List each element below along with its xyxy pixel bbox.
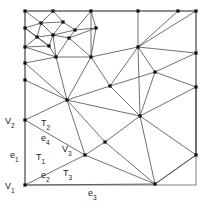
mesh-edge [41,11,53,23]
mesh-edge [85,155,155,184]
mesh-edge [37,37,49,46]
mesh-vertex [153,70,156,73]
mesh-vertex [176,9,179,12]
mesh-edge [138,47,140,116]
mesh-edge [56,57,67,100]
mesh-vertex [23,118,26,121]
boundary-rect [25,11,196,185]
mesh-edge [25,57,56,63]
mesh-vertex [89,55,92,58]
mesh-vertex [65,98,68,101]
mesh-vertex [23,9,26,12]
mesh-edge [53,35,69,38]
mesh-label-e1: e1 [10,150,19,163]
mesh-vertex [194,153,197,156]
mesh-vertex-layer [23,9,197,186]
mesh-edge [49,35,53,46]
mesh-edge [41,22,63,23]
mesh-edge [138,47,196,53]
mesh-label-V2: V2 [5,116,15,129]
mesh-edge [25,80,67,100]
mesh-vertex [61,20,64,23]
mesh-vertex [51,33,54,36]
mesh-edge [105,116,140,142]
mesh-edge [91,28,96,57]
mesh-edge [67,100,140,116]
mesh-edge [53,11,63,22]
mesh-edge [37,23,41,37]
mesh-edge [25,37,37,47]
mesh-edge [105,142,155,184]
mesh-edge [110,86,140,116]
mesh-edge-layer [25,11,196,185]
mesh-label-e3: e3 [88,188,97,201]
triangular-mesh-diagram: V1V2V3e1e2e3e4T1T2T3 [0,0,207,205]
mesh-edge [67,100,85,155]
mesh-edge [25,120,85,155]
mesh-edge [155,53,196,72]
mesh-edge [85,142,105,155]
mesh-edge [155,155,196,184]
mesh-vertex [47,44,50,47]
mesh-label-T2: T2 [41,118,51,131]
mesh-vertex [89,9,92,12]
mesh-label-T3: T3 [63,168,73,181]
mesh-edge [69,38,91,57]
domain-boundary-square [25,11,196,185]
mesh-label-T1: T1 [36,152,46,165]
mesh-vertex [23,45,26,48]
mesh-edge [25,23,41,28]
mesh-edge [25,46,49,47]
mesh-vertex [23,26,26,29]
mesh-edge [110,72,155,86]
mesh-edge [138,11,178,47]
mesh-edge [138,11,196,47]
mesh-edge [91,57,110,86]
mesh-vertex [94,26,97,29]
mesh-vertex [67,36,70,39]
mesh-vertex [35,35,38,38]
mesh-vertex [103,140,106,143]
mesh-vertex [54,55,57,58]
mesh-vertex [136,45,139,48]
mesh-edge [63,22,75,30]
mesh-edge [37,35,53,37]
mesh-edge [25,63,67,100]
mesh-vertex [194,85,197,88]
mesh-vertex [73,28,76,31]
mesh-edge [25,47,56,57]
mesh-edge [140,116,155,184]
mesh-vertex [138,114,141,117]
mesh-label-V1: V1 [5,181,15,194]
mesh-canvas: V1V2V3e1e2e3e4T1T2T3 [0,0,207,205]
mesh-edge [25,11,41,23]
mesh-vertex [51,9,54,12]
mesh-edge [138,47,155,72]
mesh-vertex [39,21,42,24]
mesh-vertex [23,78,26,81]
mesh-edge [56,38,69,57]
mesh-vertex [194,51,197,54]
mesh-edge [110,47,138,86]
mesh-edge [75,11,91,30]
mesh-vertex [194,9,197,12]
mesh-vertex [23,183,26,186]
mesh-edge [140,116,196,155]
mesh-label-e2: e2 [41,170,50,183]
mesh-label-V3: V3 [62,144,72,157]
mesh-vertex [83,153,86,156]
mesh-edge [91,47,138,57]
mesh-vertex [23,61,26,64]
mesh-label-e4: e4 [41,133,50,146]
mesh-vertex [153,182,156,185]
mesh-label-layer: V1V2V3e1e2e3e4T1T2T3 [5,116,97,201]
mesh-edge [25,100,67,120]
mesh-edge [25,155,85,185]
mesh-edge [155,72,196,87]
mesh-vertex [136,9,139,12]
mesh-edge [67,100,105,142]
mesh-edge [41,23,53,35]
mesh-vertex [108,84,111,87]
mesh-edge [91,11,96,28]
mesh-edge [53,35,56,57]
